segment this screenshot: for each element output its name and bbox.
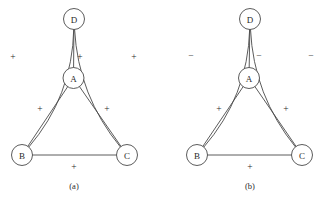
edge-sign-panel-a-a-c: + <box>104 104 109 114</box>
edge-sign-panel-a-a-b: + <box>37 104 42 114</box>
node-label-panel-a-b: B <box>19 151 25 161</box>
edge-sign-panel-a-d-c: + <box>131 52 136 62</box>
node-label-panel-a-c: C <box>124 151 130 161</box>
captions-layer: (a)(b) <box>69 181 255 191</box>
edge-panel-a-d-c <box>75 29 121 146</box>
edge-sign-panel-b-d-c: − <box>308 51 313 61</box>
node-label-panel-b-b: B <box>194 151 200 161</box>
edge-panel-b-a-c <box>255 87 296 147</box>
edge-sign-panel-b-a-b: + <box>216 104 221 114</box>
node-label-panel-a-d: D <box>71 15 78 25</box>
panel-caption-panel-a: (a) <box>69 181 79 191</box>
edge-sign-panel-a-d-a: + <box>77 52 82 62</box>
edge-sign-panel-b-b-c: + <box>247 162 252 172</box>
edge-panel-a-a-b <box>28 87 68 147</box>
edge-panel-b-a-b <box>203 87 243 147</box>
edge-panel-a-a-c <box>79 87 121 147</box>
nodes-layer: DABCDABC <box>12 9 313 166</box>
edges-layer <box>28 29 296 155</box>
edge-sign-panel-a-d-b: + <box>10 52 15 62</box>
node-label-panel-b-c: C <box>299 151 305 161</box>
edge-panel-b-d-b <box>204 30 250 148</box>
edge-sign-panel-a-b-c: + <box>71 162 76 172</box>
node-label-panel-b-d: D <box>247 15 254 25</box>
edge-sign-panel-b-d-a: − <box>256 51 261 61</box>
panel-caption-panel-b: (b) <box>245 181 255 191</box>
sign-labels-layer: ++++++−−−+++ <box>10 51 313 172</box>
edge-sign-panel-b-a-c: + <box>283 104 288 114</box>
edge-panel-b-d-c <box>250 29 295 146</box>
edge-sign-panel-b-d-b: − <box>188 51 193 61</box>
node-label-panel-b-a: A <box>246 74 253 84</box>
node-label-panel-a-a: A <box>70 74 77 84</box>
signed-graph-figure: DABCDABC ++++++−−−+++ (a)(b) <box>0 0 325 198</box>
